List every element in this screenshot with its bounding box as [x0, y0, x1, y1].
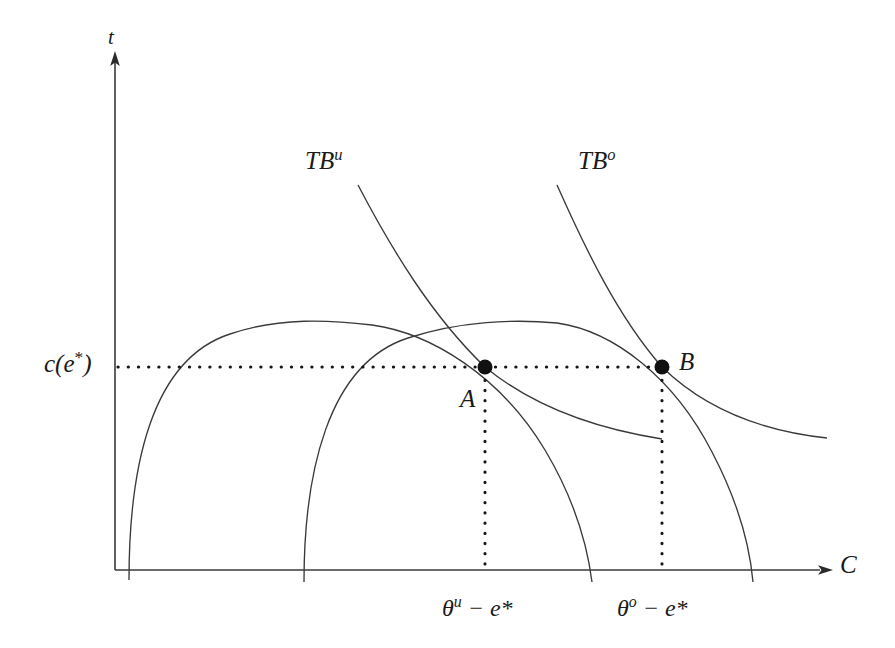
y-value-base: c(e: [44, 350, 75, 377]
point-A-marker: [478, 360, 493, 375]
theta-u-sup: u: [454, 593, 462, 610]
y-value-star: *: [75, 347, 84, 367]
economics-diagram-figure: t C c(e*) TBu TBo A B θu − e* θo − e*: [0, 0, 895, 648]
theta-u-rest: − e*: [462, 595, 513, 621]
x-axis-arrowhead: [818, 565, 833, 575]
curve-label-tb-u-sup: u: [334, 145, 342, 164]
tb-curves-group: [358, 185, 827, 439]
guide-lines-group: [118, 367, 662, 569]
curve-label-tb-o-sup: o: [607, 145, 615, 164]
curve-label-tb-o-base: TB: [578, 147, 607, 174]
y-value-label: c(e*): [44, 351, 92, 376]
indifference-dome-u-curve: [129, 321, 592, 582]
y-value-close: ): [83, 350, 91, 377]
curve-label-tb-u-base: TB: [305, 147, 334, 174]
curve-label-tb-o: TBo: [578, 148, 615, 173]
theta-u-symbol: θ: [442, 595, 454, 621]
tb-u-curve: [358, 185, 662, 439]
x-tick-label-theta-u: θu − e*: [442, 596, 513, 620]
point-B-label: B: [679, 349, 694, 374]
y-axis-label: t: [108, 27, 114, 48]
point-A-label: A: [460, 386, 475, 411]
axes-group: [110, 51, 833, 575]
tb-o-curve: [557, 185, 827, 438]
x-tick-label-theta-o: θo − e*: [617, 596, 688, 620]
theta-o-rest: − e*: [637, 595, 688, 621]
point-B-marker: [655, 360, 670, 375]
theta-o-sup: o: [629, 593, 637, 610]
curve-label-tb-u: TBu: [305, 148, 342, 173]
theta-o-symbol: θ: [617, 595, 629, 621]
x-axis-label: C: [840, 552, 857, 577]
diagram-canvas: [0, 0, 895, 648]
